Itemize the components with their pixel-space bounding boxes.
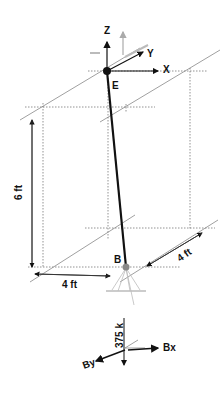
bx-label: Bx [163,342,176,353]
diagram-canvas: Z Y X E B 6 ft 4 ft 4 ft [0,0,223,394]
dimension-depth-y: 4 ft [147,233,202,266]
dimension-height: 6 ft [13,120,32,267]
by-label: By [81,356,97,371]
vertical-load-label: 375 k [114,323,125,348]
y-axis-label: Y [147,48,154,59]
x-axis-label: X [163,64,170,75]
width-x-label: 4 ft [62,279,78,290]
depth-y-label: 4 ft [175,246,194,264]
height-label: 6 ft [13,184,24,200]
joint-e [103,67,111,75]
dimension-width-x: 4 ft [35,274,110,290]
gray-reference-arrows [90,32,148,57]
y-axis-arrow [107,52,143,71]
member-eb [107,71,126,267]
reaction-forces: 375 k Bx By [81,318,176,371]
point-b-label: B [114,254,121,265]
joint-b [123,264,130,271]
point-e-label: E [112,80,119,91]
z-axis-label: Z [104,25,110,36]
dotted-box-grid [20,48,220,282]
by-arrow [96,350,125,361]
